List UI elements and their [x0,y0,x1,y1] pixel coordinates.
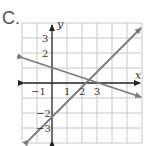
y-axis-label: y [56,18,64,31]
svg-text:2: 2 [42,48,48,59]
x-axis-label: x [135,69,142,82]
coordinate-graph: y x −1 1 2 3 3 2 −2 −3 [0,0,150,146]
svg-text:−3: −3 [36,123,51,134]
svg-text:3: 3 [42,33,48,44]
svg-text:−1: −1 [31,86,46,97]
svg-text:3: 3 [94,86,100,97]
svg-text:−2: −2 [36,108,51,119]
svg-text:2: 2 [79,86,85,97]
svg-text:1: 1 [64,86,70,97]
